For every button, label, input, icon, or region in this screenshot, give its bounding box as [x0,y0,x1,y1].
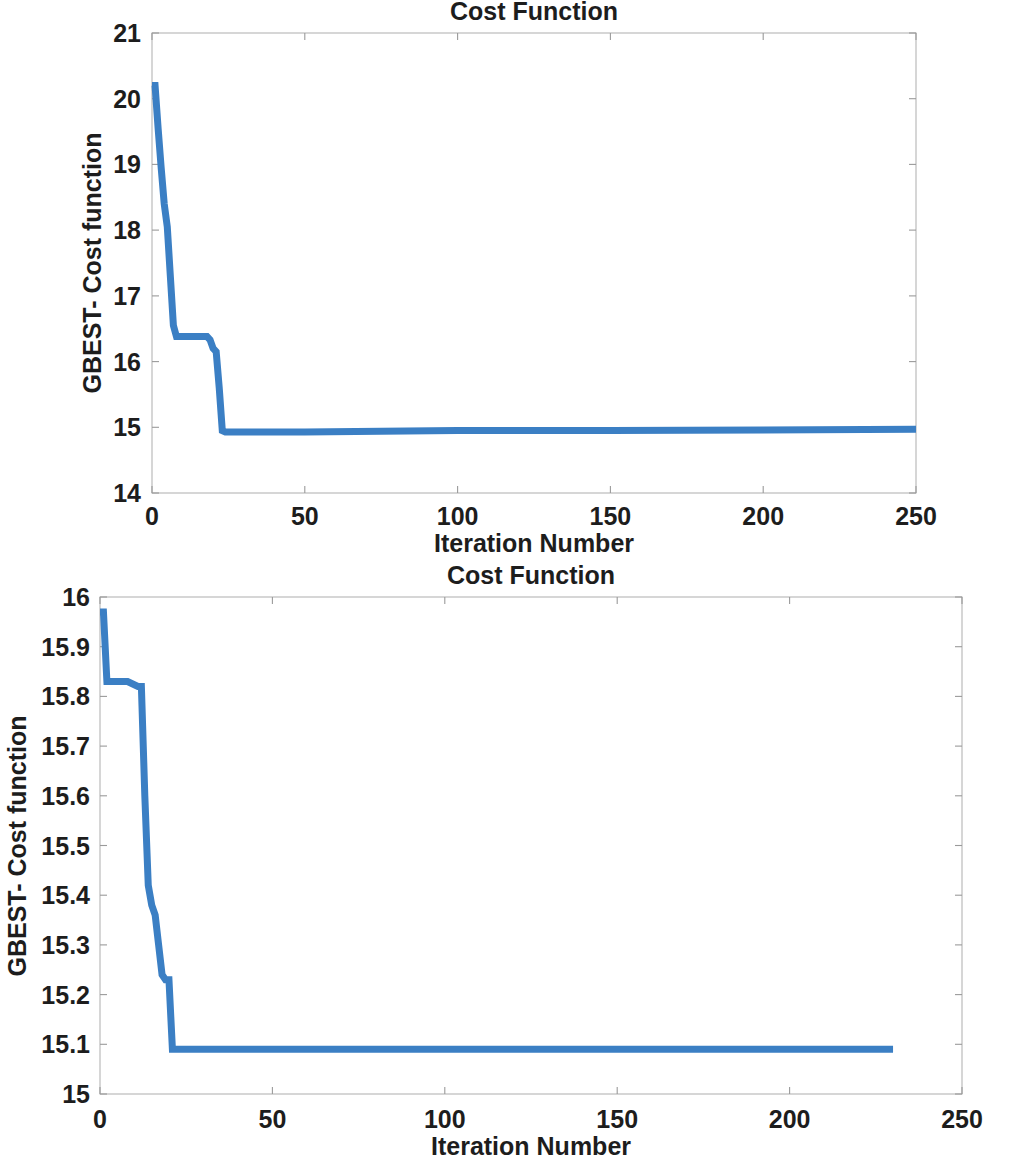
chart-bottom-xtick-1: 50 [258,1105,286,1133]
chart-top-xtick-3: 150 [590,502,632,530]
chart-top-ytick-6: 20 [113,85,141,113]
chart-top-xlabel: Iteration Number [434,529,634,556]
chart-top-xtick-1: 50 [291,502,319,530]
chart-bottom-plot-frame [100,597,962,1094]
chart-top-ytick-1: 15 [113,413,141,441]
chart-bottom-ytick-6: 15.6 [41,782,90,810]
chart-bottom-ytick-7: 15.7 [41,732,90,760]
chart-bottom-ytick-4: 15.4 [41,881,90,909]
chart-top-axes [152,33,916,493]
chart-top-ytick-5: 19 [113,150,141,178]
chart-top-xtick-2: 100 [437,502,479,530]
chart-top-xtick-0: 0 [145,502,159,530]
figure-container: Cost Function 14 15 16 17 18 19 20 21 0 … [0,0,1026,1159]
chart-bottom-xtick-0: 0 [93,1105,107,1133]
chart-top-ytick-4: 18 [113,216,141,244]
chart-top-plot-frame [152,33,916,493]
chart-bottom-ytick-2: 15.2 [41,981,90,1009]
chart-top-yticks [152,33,916,493]
chart-bottom-ytick-3: 15.3 [41,931,90,959]
chart-top-ylabel: GBEST- Cost function [78,132,106,393]
chart-top-panel: Cost Function 14 15 16 17 18 19 20 21 0 … [0,0,1026,556]
chart-bottom-xlabel: Iteration Number [431,1132,631,1159]
chart-top-ytick-2: 16 [113,348,141,376]
chart-bottom-xtick-5: 250 [941,1105,983,1133]
chart-bottom-ytick-0: 15 [62,1080,90,1108]
chart-bottom-xtick-3: 150 [596,1105,638,1133]
chart-bottom-panel: Cost Function 15 15.1 15.2 15.3 15.4 15.… [0,556,1026,1159]
chart-bottom-xtick-2: 100 [424,1105,466,1133]
chart-bottom-ytick-9: 15.9 [41,633,90,661]
chart-bottom-ytick-5: 15.5 [41,832,90,860]
chart-bottom-ytick-1: 15.1 [41,1030,90,1058]
chart-bottom-ylabel: GBEST- Cost function [3,715,31,976]
chart-top-ytick-7: 21 [113,19,141,47]
chart-bottom-axes [100,597,962,1094]
chart-bottom-ytick-10: 16 [62,583,90,611]
chart-bottom-xtick-4: 200 [769,1105,811,1133]
chart-bottom-yticks [100,597,962,1094]
chart-top-ytick-3: 17 [113,282,141,310]
chart-top-xticks [152,33,916,493]
chart-bottom-svg: Cost Function 15 15.1 15.2 15.3 15.4 15.… [0,556,1026,1159]
chart-bottom-xticks [100,597,962,1094]
chart-top-xtick-4: 200 [742,502,784,530]
chart-top-xtick-5: 250 [895,502,937,530]
chart-top-data-line [152,86,916,432]
chart-bottom-ytick-8: 15.8 [41,682,90,710]
chart-top-svg: Cost Function 14 15 16 17 18 19 20 21 0 … [0,0,1026,556]
chart-bottom-data-line [100,612,893,1049]
chart-top-ytick-0: 14 [113,479,141,507]
chart-bottom-title: Cost Function [447,561,615,589]
chart-top-title: Cost Function [450,0,618,25]
